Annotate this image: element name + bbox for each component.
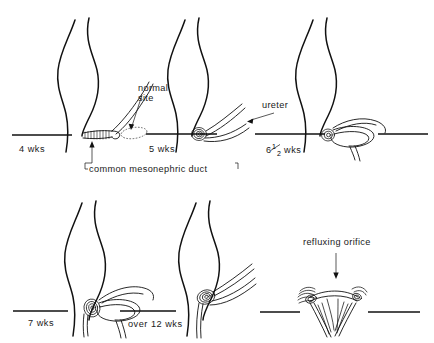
embryo-back-outline-7wks	[65, 203, 82, 336]
annotation-normal-site: normal site	[129, 83, 169, 130]
ureter-label: ureter	[262, 100, 288, 110]
embryo-back-outline-5wks	[168, 20, 185, 152]
stage-label-6half-denominator: 2	[277, 150, 281, 157]
stage-label-6half-whole: 6	[266, 145, 272, 155]
embryo-front-outline-6half	[320, 18, 336, 136]
right-ureteric-orifice	[352, 287, 367, 302]
embryo-front-outline-4wks	[82, 18, 98, 136]
stage-label-4wks: 4 wks	[19, 144, 45, 154]
stage-label-6half-unit: wks	[283, 145, 301, 155]
ureter-limbs-5wks	[204, 104, 249, 142]
stage-label-7wks: 7 wks	[28, 318, 54, 328]
panel-6half-wks: 6 1 2 wks	[266, 18, 428, 161]
embryo-back-outline-over12	[179, 203, 196, 336]
common-mesonephric-duct-label: common mesonephric duct	[89, 164, 207, 174]
annotation-ureter: ureter	[247, 100, 288, 124]
panel-orifice: refluxing orifice	[260, 0, 434, 337]
refluxing-orifice-arrowhead	[333, 273, 338, 280]
ureter-arrowhead	[247, 118, 253, 123]
embryo-front-outline-5wks	[192, 18, 208, 136]
normal-site-label-line1: normal	[138, 83, 168, 93]
cmd-arrowhead	[89, 141, 94, 147]
stage-label-over12wks: over 12 wks	[128, 319, 183, 329]
stage-label-5wks: 5 wks	[149, 144, 175, 154]
panel-over12wks: over 12 wks	[120, 201, 256, 338]
panel-7wks: 7 wks	[13, 201, 154, 338]
trigone-structure	[298, 287, 367, 337]
left-refluxing-orifice	[298, 287, 317, 304]
ureter-leader-line	[251, 113, 274, 120]
diagram-canvas: normal site 4 wks common mesonephric duc…	[0, 0, 434, 343]
normal-site-arrowhead	[129, 124, 135, 130]
embryo-back-outline-6half	[296, 20, 313, 152]
stage-label-6half-group: 6 1 2 wks	[266, 143, 301, 157]
refluxing-orifice-label: refluxing orifice	[303, 237, 371, 247]
normal-site-label-line2: site	[138, 93, 154, 103]
ureter-loop-7wks	[83, 287, 153, 338]
ureteric-orifice-coil-6half	[322, 129, 335, 141]
embryo-back-outline-4wks	[58, 20, 75, 152]
panel-4wks: normal site 4 wks common mesonephric duc…	[12, 18, 238, 174]
ureter-loop-6half	[331, 119, 386, 161]
normal-site-marker-4wks	[120, 126, 147, 141]
ureter-limbs-over12	[197, 264, 256, 338]
embryology-figure: normal site 4 wks common mesonephric duc…	[0, 0, 434, 343]
common-mesonephric-duct-4wks	[83, 131, 120, 140]
